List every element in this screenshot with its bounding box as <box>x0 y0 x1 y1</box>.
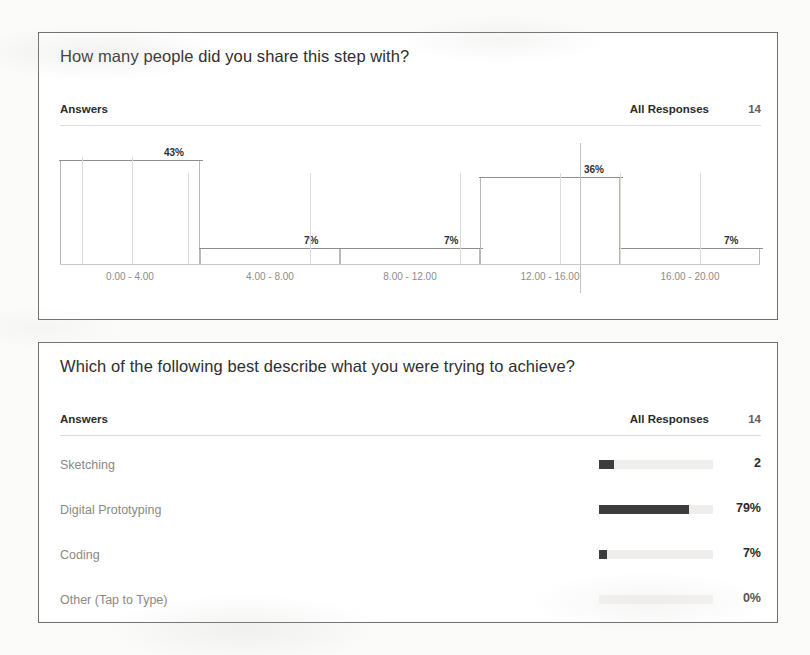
histogram-bar-value-label: 7% <box>304 235 318 246</box>
histogram-bar-value-label: 7% <box>724 235 738 246</box>
choice-value: 0% <box>721 591 761 605</box>
choice-bar-fill <box>599 460 614 469</box>
choice-label: Sketching <box>60 458 115 472</box>
histogram-bar-top-cap <box>339 248 483 249</box>
histogram-bar-top-cap <box>59 160 203 161</box>
histogram-x-axis-labels: 0.00 - 4.004.00 - 8.008.00 - 12.0012.00 … <box>60 271 760 291</box>
choice-label: Other (Tap to Type) <box>60 593 167 607</box>
header-divider <box>60 125 761 126</box>
histogram-bar <box>60 160 200 265</box>
scan-artifact-line <box>82 157 83 265</box>
scan-artifact-line <box>132 157 133 265</box>
choice-answer-list: Sketching2Digital Prototyping79%Coding7%… <box>60 447 761 627</box>
histogram-x-tick-label: 4.00 - 8.00 <box>246 271 294 282</box>
histogram-bar-value-label: 7% <box>444 235 458 246</box>
header-divider <box>60 435 761 436</box>
all-responses-label: All Responses <box>630 103 709 115</box>
histogram-bar-value-label: 43% <box>164 147 184 158</box>
histogram-meta-row: Answers All Responses 14 <box>60 103 761 123</box>
answers-label: Answers <box>60 103 108 115</box>
responses-count: 14 <box>748 103 761 115</box>
histogram-axis-baseline <box>60 264 760 265</box>
card-title-choices: Which of the following best describe wha… <box>60 357 575 376</box>
scan-artifact-line <box>620 173 621 265</box>
choice-value: 7% <box>721 546 761 560</box>
histogram-bar <box>480 177 620 265</box>
histogram-x-tick-label: 8.00 - 12.00 <box>383 271 436 282</box>
scan-artifact-line <box>460 173 461 265</box>
answers-label: Answers <box>60 413 108 425</box>
histogram-x-tick-label: 0.00 - 4.00 <box>106 271 154 282</box>
histogram-bar-top-cap <box>619 248 763 249</box>
survey-card-histogram: How many people did you share this step … <box>38 32 778 320</box>
choice-row[interactable]: Other (Tap to Type)0% <box>60 582 761 627</box>
card-title-histogram: How many people did you share this step … <box>60 47 409 66</box>
scan-artifact-line <box>310 173 311 265</box>
choice-value: 79% <box>721 501 761 515</box>
scan-artifact-line <box>700 173 701 265</box>
responses-count: 14 <box>748 413 761 425</box>
choice-bar-track <box>599 505 713 514</box>
histogram-bar <box>340 248 480 265</box>
scan-artifact-line <box>188 173 189 265</box>
histogram-plot-area: 43%7%7%36%7% <box>60 143 760 265</box>
choice-row[interactable]: Sketching2 <box>60 447 761 492</box>
histogram-bar-top-cap <box>479 177 623 178</box>
histogram-bar <box>620 248 760 265</box>
histogram-x-tick-label: 12.00 - 16.00 <box>521 271 580 282</box>
all-responses-label: All Responses <box>630 413 709 425</box>
choice-bar-track <box>599 550 713 559</box>
choice-label: Digital Prototyping <box>60 503 161 517</box>
choices-meta-row: Answers All Responses 14 <box>60 413 761 433</box>
survey-card-choices: Which of the following best describe wha… <box>38 342 778 623</box>
scan-artifact-line <box>560 173 561 265</box>
choice-bar-track <box>599 460 713 469</box>
choice-bar-track <box>599 595 713 604</box>
choice-row[interactable]: Digital Prototyping79% <box>60 492 761 537</box>
histogram-chart: 43%7%7%36%7% 0.00 - 4.004.00 - 8.008.00 … <box>60 143 760 293</box>
choice-bar-fill <box>599 505 689 514</box>
histogram-x-tick-label: 16.00 - 20.00 <box>661 271 720 282</box>
choice-value: 2 <box>721 456 761 470</box>
histogram-bar-value-label: 36% <box>584 164 604 175</box>
histogram-bar-top-cap <box>199 248 343 249</box>
choice-bar-fill <box>599 550 607 559</box>
histogram-bar <box>200 248 340 265</box>
choice-row[interactable]: Coding7% <box>60 537 761 582</box>
choice-label: Coding <box>60 548 100 562</box>
